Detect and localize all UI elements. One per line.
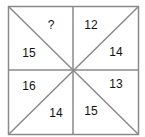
cell-value: 13 xyxy=(109,78,122,90)
cell-value: 15 xyxy=(22,47,35,59)
cell-value: 12 xyxy=(84,19,97,31)
cell-value: 16 xyxy=(22,80,35,92)
cell-value: 14 xyxy=(49,107,62,119)
cell-value: 15 xyxy=(84,105,97,117)
puzzle-grid xyxy=(0,0,145,137)
cell-question-mark: ? xyxy=(48,19,55,31)
cell-value: 14 xyxy=(109,46,122,58)
